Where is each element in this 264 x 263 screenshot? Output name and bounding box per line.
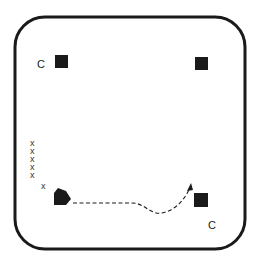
coach-label-bottom-right: C	[208, 219, 216, 231]
cone-bottom-right	[194, 193, 208, 207]
arrow-head-icon	[187, 183, 193, 191]
cone-top-right	[195, 57, 208, 70]
drill-diagram: C C x x x x x x	[0, 0, 264, 263]
player-shape	[54, 188, 71, 205]
coach-label-top-left: C	[37, 58, 45, 70]
active-player-mark: x	[41, 181, 46, 191]
field-boundary	[15, 17, 245, 249]
cone-top-left	[55, 55, 68, 68]
player-mark: x	[30, 170, 35, 180]
dribble-path	[73, 188, 190, 213]
